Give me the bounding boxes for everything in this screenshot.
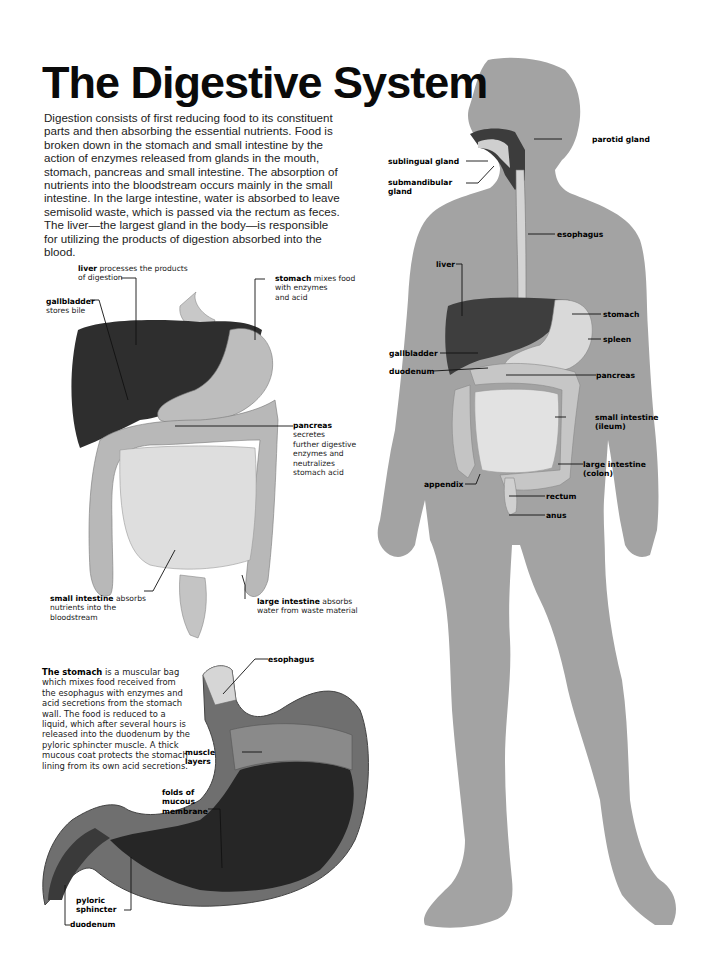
organs-illustration	[71, 292, 278, 638]
label-body-liver: liver	[436, 260, 455, 269]
label-anus: anus	[546, 511, 566, 520]
label-rectum: rectum	[546, 492, 576, 501]
label-large-intestine: large intestine absorbswater from waste …	[257, 597, 358, 616]
label-appendix: appendix	[424, 480, 464, 489]
label-mucous-folds: folds ofmucousmembrane	[162, 788, 208, 816]
label-gallbladder: gallbladderstores bile	[46, 297, 95, 316]
label-body-stomach: stomach	[603, 310, 639, 319]
label-body-pancreas: pancreas	[596, 371, 635, 380]
label-stomach: stomach mixes foodwith enzymesand acid	[275, 274, 355, 302]
page-title: The Digestive System	[42, 60, 487, 105]
label-small-intestine: small intestine absorbsnutrients into th…	[50, 594, 146, 622]
label-pyloric-sphincter: pyloricsphincter	[76, 896, 116, 915]
label-body-duodenum: duodenum	[389, 367, 434, 376]
label-pancreas: pancreassecretesfurther digestiveenzymes…	[293, 421, 356, 477]
label-sublingual-gland: sublingual gland	[388, 157, 459, 166]
label-stomach-esophagus: esophagus	[268, 655, 314, 664]
label-submandibular-gland: submandibulargland	[388, 178, 452, 197]
label-parotid-gland: parotid gland	[592, 135, 650, 144]
label-spleen: spleen	[603, 335, 631, 344]
label-body-large-intestine: large intestine(colon)	[583, 460, 646, 479]
stomach-note: The stomach is a muscular bag which mixe…	[42, 667, 192, 771]
intro-paragraph: Digestion consists of first reducing foo…	[44, 111, 344, 258]
label-stomach-duodenum: duodenum	[70, 920, 115, 929]
label-muscle-layers: musclelayers	[185, 748, 215, 767]
label-body-esophagus: esophagus	[557, 230, 603, 239]
label-body-gallbladder: gallbladder	[389, 349, 438, 358]
label-body-small-intestine: small intestine(ileum)	[595, 413, 659, 432]
label-liver: liver processes the productsof digestion	[78, 264, 188, 283]
